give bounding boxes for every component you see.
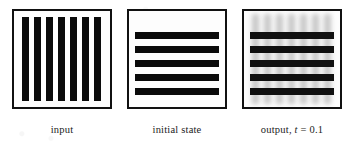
- horizontal-bar: [250, 88, 334, 95]
- caption-input: input: [2, 124, 122, 135]
- caption-input-text: input: [51, 124, 74, 135]
- vertical-bar: [22, 17, 29, 101]
- horizontal-bar: [135, 60, 219, 67]
- horizontal-bar: [135, 32, 219, 39]
- horizontal-bar: [250, 46, 334, 53]
- caption-initial-state: initial state: [117, 124, 237, 135]
- panel-output-canvas: [244, 11, 340, 107]
- panel-input: [12, 9, 112, 109]
- panel-initial-state-canvas: [129, 11, 225, 107]
- panel-initial-state: [127, 9, 227, 109]
- horizontal-bar: [135, 74, 219, 81]
- vertical-bar: [70, 17, 77, 101]
- caption-output-prefix: output,: [261, 124, 295, 135]
- vertical-bar: [82, 17, 89, 101]
- panel-output: [242, 9, 342, 109]
- panel-input-canvas: [14, 11, 110, 107]
- horizontal-bar: [250, 60, 334, 67]
- horizontal-bar: [135, 46, 219, 53]
- panel-row: [0, 0, 364, 120]
- vertical-bar: [94, 17, 101, 101]
- caption-output-suffix: = 0.1: [298, 124, 324, 135]
- vertical-bar: [46, 17, 53, 101]
- vertical-bar: [34, 17, 41, 101]
- caption-initial-state-text: initial state: [153, 124, 202, 135]
- horizontal-bar: [250, 74, 334, 81]
- caption-output: output, t = 0.1: [232, 124, 352, 135]
- horizontal-bar: [250, 32, 334, 39]
- vertical-bar: [58, 17, 65, 101]
- figure-container: input initial state output, t = 0.1: [0, 0, 364, 152]
- horizontal-bar: [135, 88, 219, 95]
